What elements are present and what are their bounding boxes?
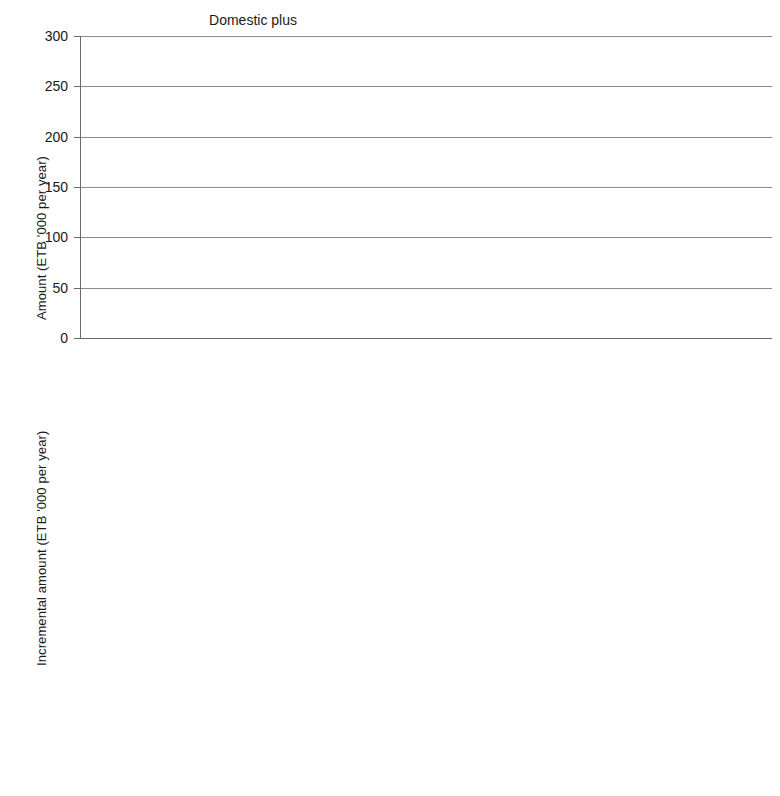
- gridline: [80, 288, 772, 289]
- y-axis-tick-label: 100: [22, 229, 68, 245]
- gridline: [80, 137, 772, 138]
- x-axis-line: [80, 338, 772, 339]
- y-axis-tick-label: 150: [22, 179, 68, 195]
- figure-root: Amount (ETB '000 per year) 0501001502002…: [0, 0, 780, 796]
- gridline: [80, 237, 772, 238]
- chart-panel-top: Amount (ETB '000 per year) 0501001502002…: [0, 0, 780, 396]
- y-axis-tick-label: 300: [22, 28, 68, 44]
- plot-area-bottom: [80, 446, 772, 656]
- y-axis-label-bottom: Incremental amount (ETB '000 per year): [34, 431, 49, 666]
- gridline: [80, 36, 772, 37]
- chart-panel-bottom: Incremental amount (ETB '000 per year): [0, 396, 780, 726]
- y-axis-tick-label: 50: [22, 280, 68, 296]
- y-axis-tick-label: 200: [22, 129, 68, 145]
- y-axis-tick-label: 0: [22, 330, 68, 346]
- gridline: [80, 86, 772, 87]
- y-axis-tick-label: 250: [22, 78, 68, 94]
- y-axis-line: [80, 36, 81, 339]
- group-title: Domestic plus: [80, 12, 426, 28]
- gridline: [80, 187, 772, 188]
- plot-area-top: 050100150200250300: [80, 36, 772, 338]
